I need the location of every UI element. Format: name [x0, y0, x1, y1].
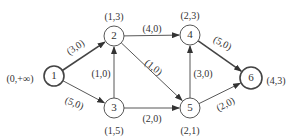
node-annotation-4: (2,3) — [180, 10, 199, 22]
node-4: 4(2,3) — [180, 10, 200, 45]
node-annotation-6: (4,3) — [266, 75, 285, 87]
node-annotation-2: (1,3) — [104, 11, 123, 23]
edge-label-3-2: (1,0) — [91, 68, 110, 80]
edge-2-4 — [124, 35, 179, 36]
edge-label-4-6: (5,0) — [211, 34, 234, 54]
node-3: 3(1,5) — [104, 98, 124, 137]
edge-label-3-5: (2,0) — [142, 113, 161, 125]
flow-network-diagram: (3,0)(5,0)(4,0)(1,0)(1,0)(2,0)(3,0)(5,0)… — [0, 0, 293, 140]
edge-labels-layer: (3,0)(5,0)(4,0)(1,0)(1,0)(2,0)(3,0)(5,0)… — [63, 23, 237, 125]
edge-label-1-2: (3,0) — [64, 37, 87, 58]
node-label-6: 6 — [248, 71, 254, 83]
node-5: 5(2,1) — [180, 98, 200, 137]
node-1: 1(0,+∞) — [7, 66, 64, 86]
node-annotation-5: (2,1) — [180, 125, 199, 137]
edge-label-5-4: (3,0) — [193, 68, 212, 80]
node-annotation-3: (1,5) — [104, 125, 123, 137]
edge-label-5-6: (2,0) — [214, 95, 237, 115]
edge-label-2-4: (4,0) — [142, 23, 161, 35]
edge-label-2-5: (1,0) — [142, 57, 164, 78]
node-label-1: 1 — [51, 69, 57, 81]
node-label-4: 4 — [187, 28, 193, 40]
node-2: 2(1,3) — [104, 11, 124, 46]
node-annotation-1: (0,+∞) — [7, 73, 34, 85]
graph-svg: (3,0)(5,0)(4,0)(1,0)(1,0)(2,0)(3,0)(5,0)… — [0, 0, 293, 140]
node-6: 6(4,3) — [240, 67, 286, 89]
edge-label-1-3: (5,0) — [63, 94, 85, 112]
node-label-3: 3 — [111, 101, 117, 113]
node-label-5: 5 — [187, 101, 193, 113]
node-label-2: 2 — [111, 29, 117, 41]
